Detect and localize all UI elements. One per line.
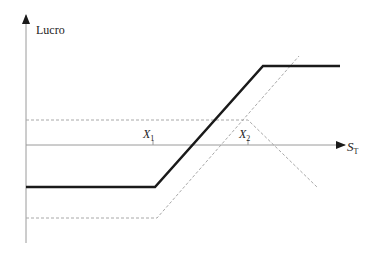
x-axis-label: ST	[347, 139, 359, 156]
long-call-component-line	[26, 56, 299, 218]
short-call-component-line	[26, 120, 317, 187]
y-axis-label: Lucro	[36, 23, 65, 37]
strike-label-x2: X2	[238, 127, 250, 143]
bull-spread-payoff-diagram: Lucro ST X1 X2	[0, 0, 374, 255]
profit-line	[26, 66, 340, 187]
strike-label-x1: X1	[142, 127, 154, 143]
